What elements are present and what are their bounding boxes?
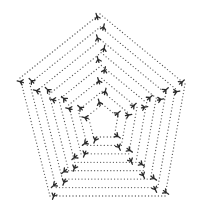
dot — [130, 178, 131, 179]
dot — [139, 142, 140, 143]
dot — [152, 169, 153, 170]
dot — [41, 161, 42, 162]
dot — [79, 29, 80, 30]
dot — [56, 157, 57, 158]
dot — [157, 137, 158, 138]
dot — [130, 143, 131, 144]
dot — [155, 147, 156, 148]
dot — [141, 195, 142, 196]
dot — [143, 119, 144, 120]
dot — [93, 71, 94, 72]
dot — [54, 63, 55, 64]
dot — [118, 187, 119, 188]
dot — [48, 122, 49, 123]
dot — [108, 195, 109, 196]
bird-footprint-icon — [125, 112, 132, 118]
dot — [164, 149, 165, 150]
dot — [120, 170, 121, 171]
dot — [40, 158, 41, 159]
dot — [74, 127, 75, 128]
dot — [172, 86, 173, 87]
dot — [108, 45, 109, 46]
dot — [118, 153, 119, 154]
dot — [103, 67, 104, 68]
dot — [133, 66, 134, 67]
dot — [91, 86, 92, 87]
dot — [59, 169, 60, 170]
bird-footprint-icon — [173, 88, 180, 94]
dot — [69, 64, 70, 65]
dot — [60, 138, 61, 139]
dot — [127, 49, 128, 50]
dot — [121, 94, 122, 95]
dot — [156, 97, 157, 98]
dot — [75, 134, 76, 135]
dot — [70, 114, 71, 115]
dot — [73, 124, 74, 125]
dot — [167, 69, 168, 70]
dot — [69, 195, 70, 196]
dot — [52, 141, 53, 142]
dot — [106, 82, 107, 83]
dot — [61, 175, 62, 176]
dot — [135, 117, 136, 118]
dot — [125, 121, 126, 122]
dot — [138, 145, 139, 146]
dot — [122, 162, 123, 163]
dot — [140, 72, 141, 73]
dot — [93, 145, 94, 146]
dot — [80, 69, 81, 70]
dot — [71, 149, 72, 150]
dot — [100, 145, 101, 146]
dot — [126, 98, 127, 99]
dot — [130, 140, 131, 141]
dot — [85, 178, 86, 179]
dot — [49, 129, 50, 130]
dot — [24, 96, 25, 97]
dot — [51, 138, 52, 139]
dot — [145, 195, 146, 196]
dot — [80, 119, 81, 120]
dot — [58, 99, 59, 100]
dot — [73, 87, 74, 88]
dot — [115, 64, 116, 65]
dot — [117, 170, 118, 171]
dot — [95, 43, 96, 44]
dot — [179, 112, 180, 113]
dot — [136, 155, 137, 156]
dot — [148, 195, 149, 196]
dot — [170, 117, 171, 118]
dot — [107, 95, 108, 96]
dot — [117, 28, 118, 29]
dot — [167, 130, 168, 131]
dot — [99, 106, 100, 107]
dot — [122, 45, 123, 46]
dot — [114, 153, 115, 154]
dot — [69, 187, 70, 188]
dot — [147, 148, 148, 149]
dot — [98, 178, 99, 179]
pentagon-web-drawing — [0, 0, 212, 211]
bird-footprint-icon — [178, 78, 186, 86]
dot — [101, 78, 102, 79]
dot — [113, 62, 114, 63]
dot — [81, 162, 82, 163]
dot — [55, 119, 56, 120]
dot — [167, 82, 168, 83]
dot — [181, 99, 182, 100]
dot — [111, 178, 112, 179]
dot — [92, 133, 93, 134]
dot — [49, 67, 50, 68]
dot — [173, 147, 174, 148]
dot — [153, 110, 154, 111]
dot — [82, 53, 83, 54]
dot — [28, 112, 29, 113]
dot — [138, 148, 139, 149]
dot — [143, 87, 144, 88]
dot — [159, 63, 160, 64]
dot — [111, 73, 112, 74]
dot — [91, 178, 92, 179]
dot — [62, 43, 63, 44]
dot — [110, 136, 111, 137]
dot — [53, 113, 54, 114]
